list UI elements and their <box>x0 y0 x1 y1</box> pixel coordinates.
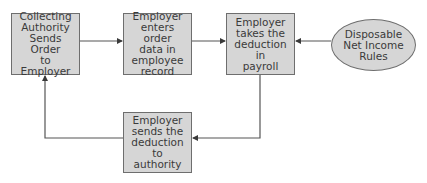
node-label: Employer takes the deduction in payroll <box>229 17 292 72</box>
edge-n3-n5 <box>193 75 260 138</box>
node-label: Collecting Authority Sends Order to Empl… <box>14 11 77 77</box>
node-label: Employer sends the deduction to authorit… <box>126 115 189 170</box>
node-collecting-authority-sends-order: Collecting Authority Sends Order to Empl… <box>11 13 80 75</box>
node-label: Disposable Net Income Rules <box>343 29 403 62</box>
node-label: Employer enters order data in employee r… <box>126 11 189 77</box>
edge-n5-n1 <box>45 76 123 138</box>
node-employer-enters-order-data: Employer enters order data in employee r… <box>123 13 192 75</box>
node-employer-takes-deduction: Employer takes the deduction in payroll <box>226 13 295 75</box>
node-employer-sends-deduction: Employer sends the deduction to authorit… <box>123 112 192 173</box>
node-disposable-net-income-rules: Disposable Net Income Rules <box>331 19 416 71</box>
